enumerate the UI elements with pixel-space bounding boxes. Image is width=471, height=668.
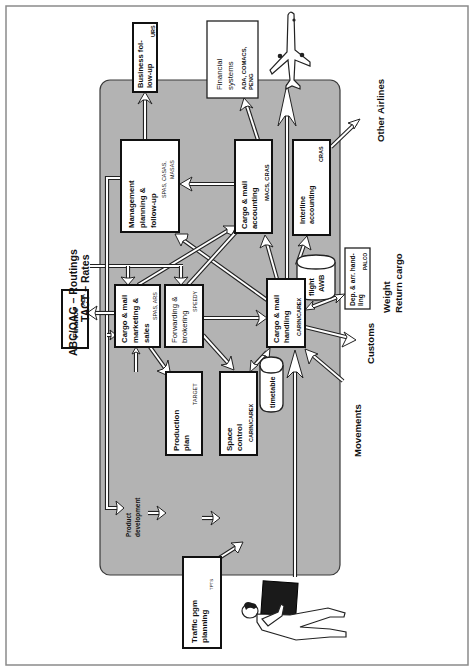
flight-awb-line2: AWB (317, 275, 326, 292)
interline-system: CRAS (318, 146, 324, 162)
forwarding-line2: brokering (180, 310, 189, 343)
product-dev-line2: development (134, 497, 142, 537)
datastore-timetable: timetable (260, 357, 283, 412)
traffic-line1: Traffic pgm (190, 600, 199, 643)
business-followup-line2: low-up (145, 63, 154, 88)
label-abc-oag-routings: ABC/OAG – Routings (67, 249, 79, 356)
production-line2: plan (182, 435, 191, 451)
timetable-label: timetable (268, 376, 277, 408)
space-system: CARIN/CAREX (248, 403, 254, 442)
box-financial-systems: Financial systems ADA, COMACS, PENG (207, 21, 258, 98)
box-space-control: Space control CARIN/CAREX (220, 372, 257, 455)
box-interline-accounting: Interline accounting CRAS (293, 140, 330, 235)
financial-systems-system2: PENG (248, 73, 254, 90)
production-system: TARGET (192, 383, 198, 405)
traffic-line2: planning (200, 610, 209, 643)
accounting-line2: accounting (250, 187, 259, 229)
label-other-airlines: Other Airlines (375, 79, 386, 142)
space-line2: control (235, 424, 244, 451)
mgmt-line3: follow-up (149, 193, 158, 228)
handling-system: CARIN/CAREX (296, 297, 302, 336)
business-followup-system: URS (150, 25, 156, 37)
accounting-system: MACS, CRAS (264, 164, 270, 201)
box-dep-arr-handling: Dep. & arr. hand- ling PALCO (345, 248, 370, 309)
business-followup-line1: Business fol- (136, 40, 145, 88)
financial-systems-line1: Financial (215, 59, 224, 90)
product-dev-line1: Product (125, 512, 132, 537)
marketing-line3: sales (142, 323, 151, 343)
deparr-line2: ling (357, 294, 365, 306)
flight-awb-line1: flight (307, 277, 316, 296)
box-cargo-mail-accounting: Cargo & mail accounting MACS, CRAS (235, 140, 272, 233)
marketing-system: SPAS, ARS (152, 292, 158, 320)
space-line1: Space (225, 427, 234, 451)
traffic-system: TPTS (209, 579, 214, 590)
mgmt-system2: MASAS (169, 160, 175, 179)
financial-systems-system1: ADA, COMACS, (241, 46, 247, 90)
box-management-planning: Management planning & follow-up SPAS, CA… (121, 140, 179, 232)
deparr-system: PALCO (362, 253, 368, 270)
box-production-plan: Production plan TARGET (166, 372, 202, 455)
forwarding-system: SPEEDY (192, 290, 198, 312)
handling-line2: handling (282, 310, 291, 343)
box-forwarding-brokering: Forwarding & brokering SPEEDY (165, 285, 203, 347)
label-weight: Weight (381, 280, 392, 313)
mgmt-line2: planning & (138, 187, 147, 228)
box-cargo-mail-marketing: Cargo & mail marketing & sales SPAS, ARS (115, 285, 160, 347)
financial-systems-line2: systems (226, 61, 235, 90)
production-line1: Production (172, 410, 181, 451)
label-customs: Customs (365, 323, 376, 364)
label-tact-rates: TACT – Rates (79, 254, 91, 322)
box-business-followup: Business fol- low-up URS (133, 23, 157, 92)
forwarding-line1: Forwarding & (170, 296, 179, 343)
mgmt-line1: Management (127, 180, 136, 228)
interline-line1: Interline (298, 196, 307, 224)
handling-line1: Cargo & mail (272, 295, 281, 343)
box-traffic-pgm-planning: Traffic pgm planning TPTS (183, 557, 221, 648)
mgmt-system1: SPAS, CASAS, (161, 161, 167, 198)
marketing-line1: Cargo & mail (120, 295, 129, 343)
deparr-line1: Dep. & arr. hand- (349, 253, 357, 306)
accounting-line1: Cargo & mail (240, 181, 249, 229)
cargo-systems-diagram: Business fol- low-up URS Financial syste… (0, 0, 471, 668)
label-movements: Movements (352, 404, 363, 457)
box-cargo-mail-handling: Cargo & mail handling CARIN/CAREX (267, 279, 305, 347)
label-return-cargo: Return cargo (393, 253, 404, 313)
interline-line2: accounting (307, 186, 316, 224)
marketing-line2: marketing & (131, 298, 140, 343)
